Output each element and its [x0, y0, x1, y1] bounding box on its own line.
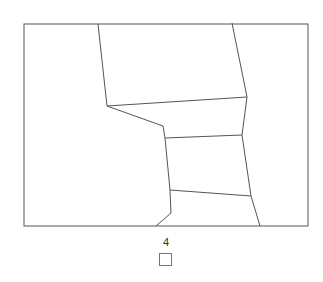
- legend-label: 4: [160, 236, 172, 248]
- map-frame: [24, 24, 308, 226]
- legend-swatch: [159, 253, 172, 266]
